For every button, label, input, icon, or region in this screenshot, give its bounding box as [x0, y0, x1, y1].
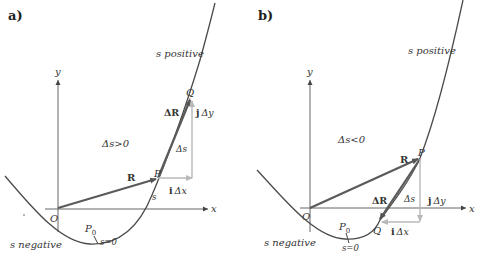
- delta-R-label: ΔR: [372, 195, 387, 206]
- y-axis-label: y: [306, 66, 313, 77]
- R-label: R: [400, 154, 409, 165]
- point-Q-label: Q: [373, 225, 381, 236]
- panel-a-label: a): [8, 8, 23, 23]
- delta-s-condition: Δs<0: [337, 134, 366, 145]
- s-positive-label: s positive: [156, 48, 204, 59]
- point-P-label: P: [417, 147, 425, 158]
- stray-dot: [23, 214, 25, 216]
- point-Q-label: Q: [186, 87, 194, 98]
- x-axis-label: x: [211, 203, 217, 214]
- arc-s-label: s: [152, 192, 157, 202]
- p0-tick: [94, 236, 98, 244]
- y-axis-label: y: [54, 66, 61, 77]
- delta-s-label: Δs: [175, 144, 187, 154]
- s-negative-label: s negative: [10, 239, 62, 250]
- R-label: R: [127, 172, 136, 183]
- delta-s-label: Δs: [403, 194, 415, 204]
- panel-a: a) y x O s positive Q ΔR jΔy Δs>0 Δs R P: [5, 3, 217, 250]
- trajectory-curve: [257, 0, 463, 239]
- P0-label: P0: [338, 221, 350, 235]
- delta-R-label: ΔR: [164, 107, 179, 118]
- delta-s-condition: Δs>0: [101, 138, 130, 149]
- origin-label: O: [50, 213, 58, 224]
- kinematics-diagram: a) y x O s positive Q ΔR jΔy Δs>0 Δs R P: [0, 0, 477, 261]
- point-P-label: P: [153, 168, 161, 179]
- s-zero-label: s=0: [100, 237, 117, 247]
- panel-b: b) y x O s positive Δs<0 R P ΔR Δs jΔy Q: [257, 0, 475, 253]
- s-positive-label: s positive: [408, 45, 456, 56]
- s-zero-label: s=0: [342, 243, 359, 253]
- j-dy-label: jΔy: [427, 195, 446, 206]
- i-dx-label: iΔx: [169, 185, 187, 196]
- P0-label: P0: [84, 223, 96, 237]
- i-dx-label: iΔx: [391, 226, 409, 237]
- trajectory-curve: [5, 3, 215, 244]
- x-axis-label: x: [469, 203, 475, 214]
- j-dy-label: jΔy: [195, 107, 214, 118]
- vector-R: [310, 159, 418, 208]
- panel-b-label: b): [258, 8, 273, 23]
- s-negative-label: s negative: [264, 237, 316, 248]
- vector-R: [58, 179, 156, 208]
